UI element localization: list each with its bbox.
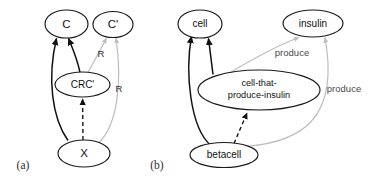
node-cell-that-produce-insulin-label-line1: cell-that-: [241, 78, 276, 88]
edge-label-produce-1: produce: [275, 47, 309, 58]
node-cell[interactable]: cell: [178, 10, 222, 38]
node-c-prime-label: C': [108, 18, 119, 30]
edge-ctpi-to-cell[interactable]: [209, 39, 214, 75]
diagram-root: C C' CRC' X R R: [0, 0, 375, 185]
node-crc-prime-label: CRC': [71, 79, 95, 90]
edge-label-r-1: R: [98, 48, 105, 59]
node-cell-label: cell: [192, 18, 207, 29]
concept-diagram-svg: C C' CRC' X R R: [0, 0, 375, 185]
node-c[interactable]: C: [45, 10, 88, 38]
node-c-label: C: [62, 18, 70, 30]
node-insulin-label: insulin: [299, 18, 327, 29]
node-betacell-label: betacell: [207, 149, 241, 160]
panel-b-nodes: cell insulin cell-that- produce-insulin …: [178, 10, 343, 168]
node-betacell[interactable]: betacell: [190, 143, 258, 168]
node-x[interactable]: X: [58, 140, 110, 167]
edge-crcprime-to-c[interactable]: [69, 39, 81, 73]
node-cell-that-produce-insulin-label-line2: produce-insulin: [228, 90, 290, 100]
edge-betacell-to-ctpi[interactable]: [234, 113, 247, 144]
node-cell-that-produce-insulin[interactable]: cell-that- produce-insulin: [198, 70, 320, 110]
edge-label-r-2: R: [116, 83, 123, 94]
node-insulin[interactable]: insulin: [283, 10, 343, 37]
panel-b-caption: (b): [150, 159, 164, 172]
panel-a-caption: (a): [17, 159, 30, 172]
node-c-prime[interactable]: C': [93, 12, 133, 38]
edge-label-produce-2: produce: [327, 83, 361, 94]
node-x-label: X: [80, 147, 88, 159]
node-crc-prime[interactable]: CRC': [55, 72, 110, 97]
